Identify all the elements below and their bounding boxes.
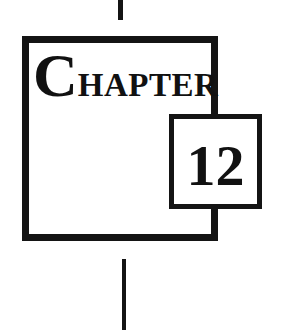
chapter-label: CHAPTER bbox=[33, 44, 218, 106]
top-connector-line bbox=[118, 0, 123, 20]
chapter-number-frame: 12 bbox=[169, 114, 262, 209]
bottom-connector-line bbox=[122, 259, 126, 330]
chapter-number: 12 bbox=[174, 137, 257, 195]
chapter-label-initial: C bbox=[33, 44, 78, 106]
chapter-label-rest: HAPTER bbox=[78, 69, 219, 102]
